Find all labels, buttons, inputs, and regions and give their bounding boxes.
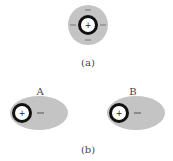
caption-b: (b) <box>81 144 95 155</box>
molecule-a: A + <box>10 86 68 130</box>
plus-charge-icon: + <box>19 109 26 118</box>
plus-charge-icon: + <box>116 109 123 118</box>
caption-a: (a) <box>81 57 95 68</box>
label-a: A <box>35 86 44 97</box>
molecule-b: B + <box>107 86 165 130</box>
panel-a: + (a) <box>68 5 108 68</box>
charge-distribution-diagram: + (a) A + B + (b) <box>0 0 173 161</box>
label-b: B <box>129 86 136 97</box>
plus-charge-icon: + <box>85 21 92 30</box>
